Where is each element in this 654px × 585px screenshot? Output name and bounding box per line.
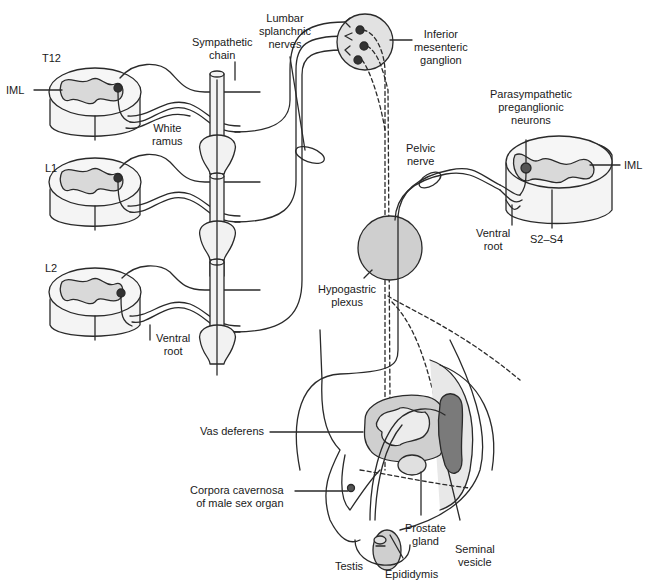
label-prostate: Prostate gland (405, 522, 446, 548)
label-l1: L1 (45, 162, 57, 175)
label-s2-s4: S2–S4 (530, 233, 563, 246)
label-parasympathetic: Parasympathetic preganglionic neurons (490, 88, 572, 127)
label-iml-left: IML (6, 84, 24, 97)
label-vas-deferens: Vas deferens (200, 425, 264, 438)
label-epididymis: Epididymis (385, 568, 438, 581)
label-seminal: Seminal vesicle (455, 543, 495, 569)
label-pelvic-nerve: Pelvic nerve (406, 142, 435, 168)
label-sympathetic-chain: Sympathetic chain (192, 36, 253, 62)
label-hypogastric: Hypogastric plexus (318, 283, 376, 309)
label-white-ramus: White ramus (152, 122, 183, 148)
label-testis: Testis (335, 560, 363, 573)
label-iml-right: IML (624, 159, 642, 172)
label-ventral-root-left: Ventral root (156, 332, 190, 358)
spinal-cord-s2-s4 (500, 136, 620, 228)
label-t12: T12 (42, 52, 61, 65)
label-inferior-mesenteric: Inferior mesenteric ganglion (414, 28, 468, 67)
label-l2: L2 (45, 262, 57, 275)
sympathetic-chain (200, 71, 236, 375)
label-corpora: Corpora cavernosa of male sex organ (190, 484, 284, 510)
label-lumbar-splanchnic: Lumbar splanchnic nerves (259, 12, 311, 51)
label-ventral-root-right: Ventral root (476, 227, 510, 253)
